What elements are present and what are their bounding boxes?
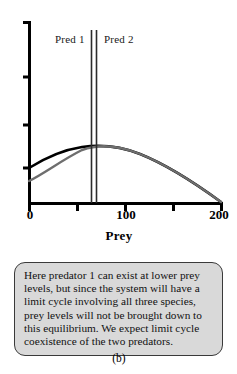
pred1-annotation-label: Pred 1 [55,33,85,45]
x-tick-label-200: 200 [209,207,229,223]
x-axis-title: Prey [106,228,133,244]
pred2-annotation-label: Pred 2 [104,33,134,45]
panel-label: (b) [112,352,125,364]
x-tick-label-100: 100 [116,207,136,223]
figure-panel: Pred 1 Pred 2 0 100 200 Prey [0,0,237,248]
prey-nullcline-upper-curve [29,146,221,202]
caption-text: Here predator 1 can exist at lower prey … [24,269,213,348]
x-tick-label-0: 0 [27,207,34,223]
caption-box: Here predator 1 can exist at lower prey … [14,262,223,356]
